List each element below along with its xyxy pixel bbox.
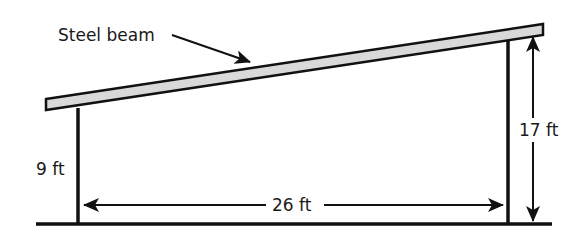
steel-beam-pointer-arrow xyxy=(172,35,250,62)
right-height-label: 17 ft xyxy=(519,120,559,140)
steel-beam-label: Steel beam xyxy=(58,25,155,45)
span-label: 26 ft xyxy=(272,195,312,215)
left-height-label: 9 ft xyxy=(36,159,65,179)
beam-diagram: Steel beam 9 ft 17 ft 26 ft xyxy=(0,0,585,240)
